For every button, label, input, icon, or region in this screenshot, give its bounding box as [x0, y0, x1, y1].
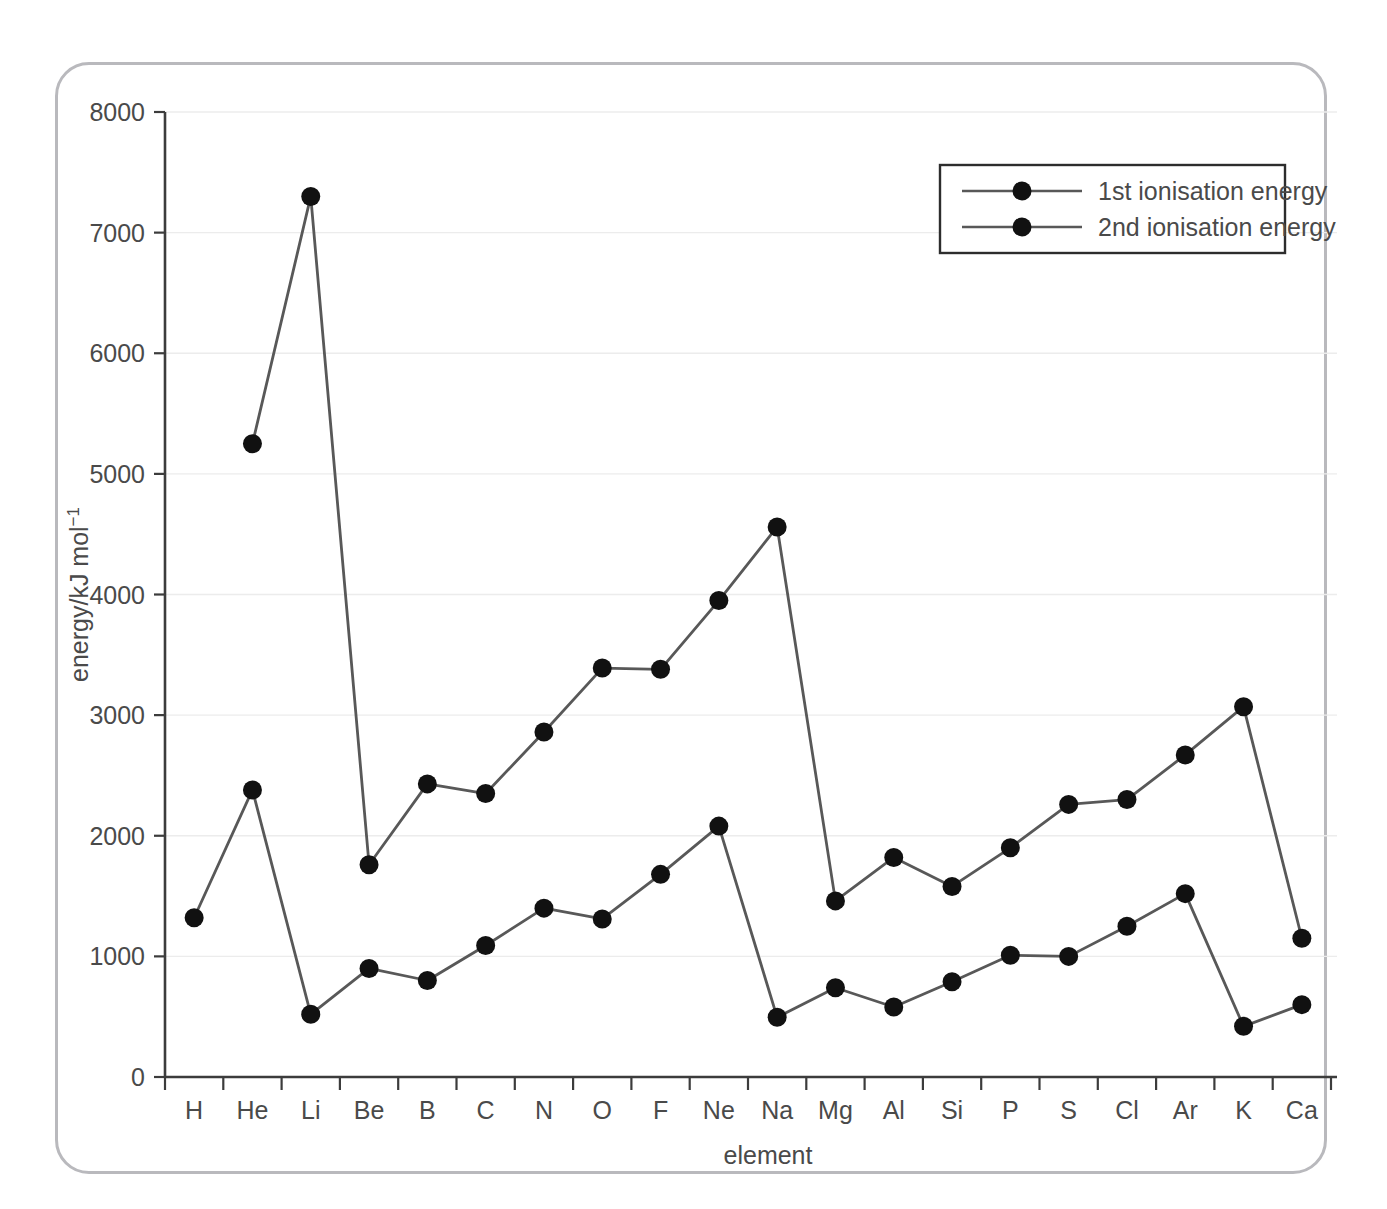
x-tick-label-he: He [236, 1096, 268, 1124]
x-tick-label-al: Al [883, 1096, 905, 1124]
data-point-marker [593, 659, 612, 678]
x-tick-label-ar: Ar [1173, 1096, 1198, 1124]
series-line-1 [194, 790, 1302, 1026]
data-point-marker [1176, 745, 1195, 764]
ionisation-energy-chart: 010002000300040005000600070008000HHeLiBe… [0, 0, 1387, 1209]
y-tick-label: 0 [131, 1063, 145, 1091]
x-tick-label-be: Be [354, 1096, 385, 1124]
x-tick-label-li: Li [301, 1096, 320, 1124]
y-tick-label: 7000 [89, 219, 145, 247]
data-point-marker [476, 936, 495, 955]
data-point-marker [943, 972, 962, 991]
y-tick-label: 3000 [89, 701, 145, 729]
x-tick-label-si: Si [941, 1096, 963, 1124]
data-point-marker [360, 855, 379, 874]
data-point-marker [768, 517, 787, 536]
data-point-marker [943, 877, 962, 896]
x-tick-label-cl: Cl [1115, 1096, 1139, 1124]
data-point-marker [593, 909, 612, 928]
x-tick-label-mg: Mg [818, 1096, 853, 1124]
data-point-marker [534, 899, 553, 918]
x-tick-label-n: N [535, 1096, 553, 1124]
y-tick-label: 1000 [89, 942, 145, 970]
data-point-marker [476, 784, 495, 803]
x-axis-title-text: element [724, 1141, 813, 1169]
data-point-marker [185, 908, 204, 927]
data-point-marker [826, 891, 845, 910]
series-line-2 [252, 196, 1301, 938]
data-point-marker [651, 865, 670, 884]
data-point-marker [418, 971, 437, 990]
data-point-marker [534, 723, 553, 742]
data-point-marker [709, 817, 728, 836]
data-point-marker [1001, 946, 1020, 965]
y-tick-label: 6000 [89, 339, 145, 367]
x-tick-label-k: K [1235, 1096, 1252, 1124]
data-point-marker [1059, 795, 1078, 814]
y-tick-label: 2000 [89, 822, 145, 850]
x-tick-label-f: F [653, 1096, 668, 1124]
legend-entry-label-2: 2nd ionisation energy [1098, 213, 1336, 241]
data-point-marker [1176, 884, 1195, 903]
y-tick-label: 5000 [89, 460, 145, 488]
data-point-marker [1117, 917, 1136, 936]
data-point-marker [243, 434, 262, 453]
data-point-marker [301, 1005, 320, 1024]
data-point-marker [243, 780, 262, 799]
legend-marker-icon-1 [1013, 182, 1032, 201]
data-point-marker [1234, 1017, 1253, 1036]
chart-page: 010002000300040005000600070008000HHeLiBe… [0, 0, 1387, 1209]
x-tick-label-b: B [419, 1096, 436, 1124]
x-tick-label-h: H [185, 1096, 203, 1124]
x-tick-label-s: S [1060, 1096, 1077, 1124]
y-tick-label: 8000 [89, 98, 145, 126]
data-point-marker [768, 1008, 787, 1027]
data-point-marker [418, 774, 437, 793]
data-point-marker [1117, 790, 1136, 809]
data-point-marker [709, 591, 728, 610]
data-point-marker [884, 998, 903, 1017]
data-point-marker [1234, 697, 1253, 716]
legend-entry-label-1: 1st ionisation energy [1098, 177, 1328, 205]
data-point-marker [1292, 995, 1311, 1014]
x-tick-label-o: O [593, 1096, 612, 1124]
y-axis-title-text: energy/kJ mol−1 [64, 507, 94, 682]
data-point-marker [651, 660, 670, 679]
x-tick-label-na: Na [761, 1096, 793, 1124]
data-point-marker [884, 848, 903, 867]
data-point-marker [1292, 929, 1311, 948]
chart-svg: 010002000300040005000600070008000HHeLiBe… [0, 0, 1387, 1209]
x-tick-label-c: C [477, 1096, 495, 1124]
x-tick-label-ca: Ca [1286, 1096, 1318, 1124]
legend-marker-icon-2 [1013, 218, 1032, 237]
data-point-marker [1001, 838, 1020, 857]
data-point-marker [1059, 947, 1078, 966]
y-tick-label: 4000 [89, 581, 145, 609]
data-point-marker [826, 978, 845, 997]
data-point-marker [360, 959, 379, 978]
data-point-marker [301, 187, 320, 206]
x-tick-label-ne: Ne [703, 1096, 735, 1124]
x-tick-label-p: P [1002, 1096, 1019, 1124]
